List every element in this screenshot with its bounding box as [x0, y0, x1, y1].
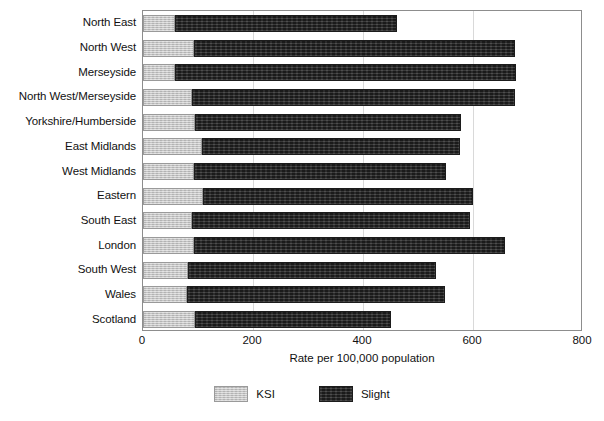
bar-row	[143, 40, 515, 57]
bar-segment-slight	[194, 40, 515, 57]
legend-label: KSI	[256, 388, 275, 400]
bar-segment-ksi	[143, 138, 202, 155]
bar-segment-ksi	[143, 262, 188, 279]
bar-segment-slight	[175, 15, 397, 32]
x-tick-label: 0	[139, 334, 145, 347]
x-axis-title: Rate per 100,000 population	[142, 352, 582, 364]
bar-segment-slight	[202, 138, 461, 155]
bar-segment-ksi	[143, 286, 187, 303]
x-tick-label: 400	[352, 334, 371, 347]
category-label: Yorkshire/Humberside	[0, 115, 136, 127]
bar-segment-ksi	[143, 311, 195, 328]
bar-row	[143, 286, 445, 303]
category-label: Merseyside	[0, 66, 136, 78]
category-label: South West	[0, 263, 136, 275]
bar-row	[143, 188, 473, 205]
legend-swatch-icon	[319, 386, 353, 402]
category-label: West Midlands	[0, 165, 136, 177]
category-label: Scotland	[0, 313, 136, 325]
bar-segment-ksi	[143, 64, 175, 81]
category-label: London	[0, 239, 136, 251]
x-tick-label: 800	[572, 334, 591, 347]
bar-segment-slight	[194, 163, 446, 180]
category-label: South East	[0, 214, 136, 226]
category-label: East Midlands	[0, 140, 136, 152]
bar-segment-slight	[194, 237, 505, 254]
bar-segment-ksi	[143, 237, 194, 254]
bar-segment-slight	[192, 89, 515, 106]
bar-segment-slight	[195, 114, 461, 131]
chart-legend: KSISlight	[0, 386, 604, 402]
gridline-600	[473, 11, 474, 330]
bar-segment-ksi	[143, 89, 192, 106]
bar-row	[143, 89, 515, 106]
bar-row	[143, 114, 461, 131]
x-tick-label: 200	[242, 334, 261, 347]
bar-segment-ksi	[143, 114, 195, 131]
x-tick-label: 600	[462, 334, 481, 347]
bar-row	[143, 64, 516, 81]
legend-swatch-icon	[214, 386, 248, 402]
bar-segment-slight	[175, 64, 516, 81]
category-label: North West	[0, 41, 136, 53]
bar-row	[143, 163, 446, 180]
bar-segment-slight	[192, 212, 470, 229]
legend-item[interactable]: KSI	[214, 386, 275, 402]
legend-item[interactable]: Slight	[319, 386, 390, 402]
bar-chart: North EastNorth WestMerseysideNorth West…	[0, 0, 604, 421]
bar-segment-slight	[187, 286, 445, 303]
bar-segment-ksi	[143, 188, 203, 205]
bar-segment-ksi	[143, 15, 175, 32]
bar-segment-ksi	[143, 163, 194, 180]
bar-row	[143, 311, 391, 328]
bar-row	[143, 138, 460, 155]
category-axis-labels: North EastNorth WestMerseysideNorth West…	[0, 10, 136, 331]
bar-segment-ksi	[143, 40, 194, 57]
bar-row	[143, 212, 470, 229]
plot-area	[142, 10, 582, 331]
x-axis-ticks: 0200400600800	[142, 334, 582, 350]
bar-row	[143, 15, 397, 32]
bar-row	[143, 237, 505, 254]
bar-segment-slight	[195, 311, 391, 328]
category-label: Eastern	[0, 189, 136, 201]
bar-segment-slight	[188, 262, 436, 279]
bar-row	[143, 262, 436, 279]
legend-label: Slight	[361, 388, 390, 400]
bar-segment-ksi	[143, 212, 192, 229]
category-label: North West/Merseyside	[0, 90, 136, 102]
category-label: Wales	[0, 288, 136, 300]
bar-segment-slight	[203, 188, 473, 205]
category-label: North East	[0, 16, 136, 28]
